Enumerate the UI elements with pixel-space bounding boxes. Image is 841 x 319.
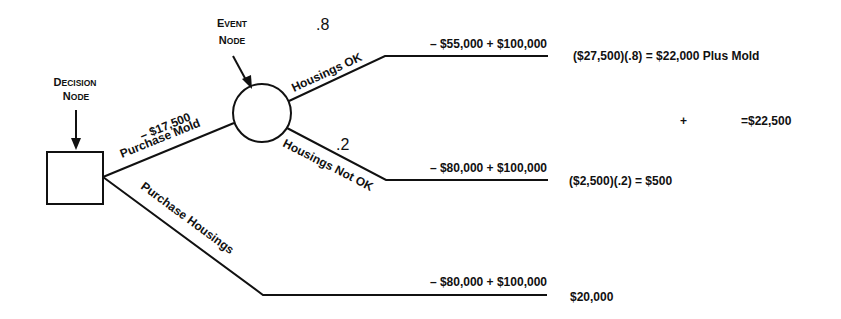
housings-purchase-payoff: – $80,000 + $100,000	[430, 275, 547, 289]
sum-plus-sign: +	[680, 114, 687, 128]
housings-ok-probability: .8	[316, 16, 329, 33]
decision-tree-diagram: DECISION NODE EVENT NODE – $17,500 Purch…	[0, 0, 841, 319]
decision-arrow-head-icon	[71, 138, 81, 150]
decision-node-label-line1: DECISION	[54, 76, 97, 88]
event-node-label-line2: NODE	[219, 34, 246, 46]
event-node-label-line1: EVENT	[217, 17, 248, 29]
event-node-arrow	[233, 56, 246, 80]
housings-ok-label: Housings OK	[289, 50, 364, 95]
housings-not-ok-label: Housings Not OK	[281, 136, 376, 194]
housings-not-ok-payoff: – $80,000 + $100,000	[430, 161, 547, 175]
housings-ok-calc: ($27,500)(.8) = $22,000 Plus Mold	[573, 49, 759, 63]
housings-purchase-value: $20,000	[570, 290, 614, 304]
decision-node-square	[47, 152, 103, 204]
decision-node-label-line2: NODE	[63, 90, 90, 102]
housings-not-ok-probability: .2	[336, 136, 349, 153]
housings-not-ok-calc: ($2,500)(.2) = $500	[569, 174, 672, 188]
housings-ok-payoff: – $55,000 + $100,000	[430, 37, 547, 51]
event-node-circle	[233, 84, 291, 142]
expected-value-total: =$22,500	[741, 114, 792, 128]
purchase-housings-label: Purchase Housings	[138, 179, 237, 257]
